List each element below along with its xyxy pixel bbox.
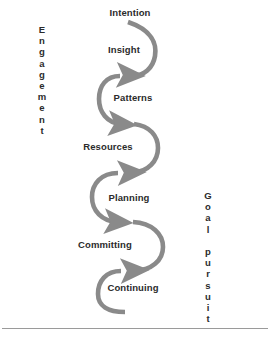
stage-label-resources: Resources: [83, 142, 132, 152]
stage-label-insight: Insight: [108, 45, 140, 55]
stage-label-intention: Intention: [109, 8, 150, 18]
diagram-canvas: Intention Insight Patterns Resources Pla…: [0, 0, 270, 337]
bottom-divider: [2, 328, 268, 329]
stage-label-planning: Planning: [109, 193, 150, 203]
stage-label-committing: Committing: [78, 240, 132, 250]
axis-label-engagement: Engagement: [38, 24, 46, 136]
stage-label-continuing: Continuing: [107, 283, 158, 293]
stage-label-patterns: Patterns: [114, 93, 153, 103]
arrow-planning-to-committing: [133, 222, 163, 271]
arrow-patterns-to-resources: [133, 124, 158, 173]
axis-label-goal-pursuit: Goal pursuit: [204, 190, 211, 324]
